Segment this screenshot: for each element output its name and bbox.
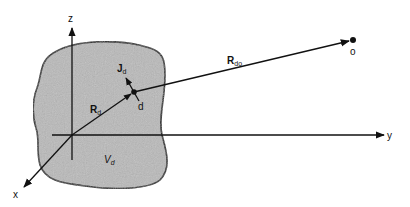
observation-point-label: o	[350, 46, 356, 57]
source-point-label: d	[138, 101, 144, 112]
vector-diagram: z y x Rd Rdo Jd d o Vd	[0, 0, 410, 207]
observation-point-o	[350, 37, 356, 43]
y-axis-label: y	[387, 130, 392, 141]
r-do-label: Rdo	[227, 55, 242, 67]
x-axis-label: x	[13, 189, 18, 200]
z-axis-label: z	[68, 13, 73, 24]
source-point-d	[131, 89, 137, 95]
